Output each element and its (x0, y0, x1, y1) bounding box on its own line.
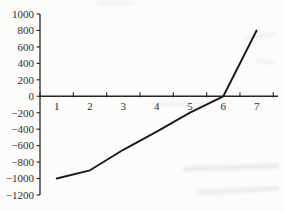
y-axis-tick-label: 0 (29, 90, 35, 102)
x-axis-tick-label: 5 (187, 100, 193, 112)
x-axis-tick-label: 3 (121, 100, 127, 112)
line-chart: 10008006004002000−200−400−600−800−1000−1… (0, 0, 284, 211)
y-axis-tick-label: 800 (18, 24, 35, 36)
y-axis-tick-label: −600 (11, 139, 34, 151)
y-axis-tick-label: 600 (18, 41, 35, 53)
x-axis-tick-label: 7 (254, 100, 260, 112)
y-axis-tick-label: 1000 (12, 8, 35, 20)
y-axis-tick-label: −200 (11, 107, 34, 119)
x-axis-tick-label: 1 (54, 100, 60, 112)
scanned-line-chart-page: 10008006004002000−200−400−600−800−1000−1… (0, 0, 284, 211)
x-axis-tick-label: 6 (221, 100, 227, 112)
y-axis-tick-label: −400 (11, 123, 34, 135)
x-axis-tick-label: 4 (154, 100, 160, 112)
y-axis-tick-label: 400 (18, 57, 35, 69)
y-axis-tick-label: 200 (18, 74, 35, 86)
y-axis-tick-label: −1200 (6, 189, 35, 201)
y-axis-tick-label: −1000 (6, 172, 35, 184)
y-axis-tick-label: −800 (11, 156, 34, 168)
x-axis-tick-label: 2 (87, 100, 93, 112)
